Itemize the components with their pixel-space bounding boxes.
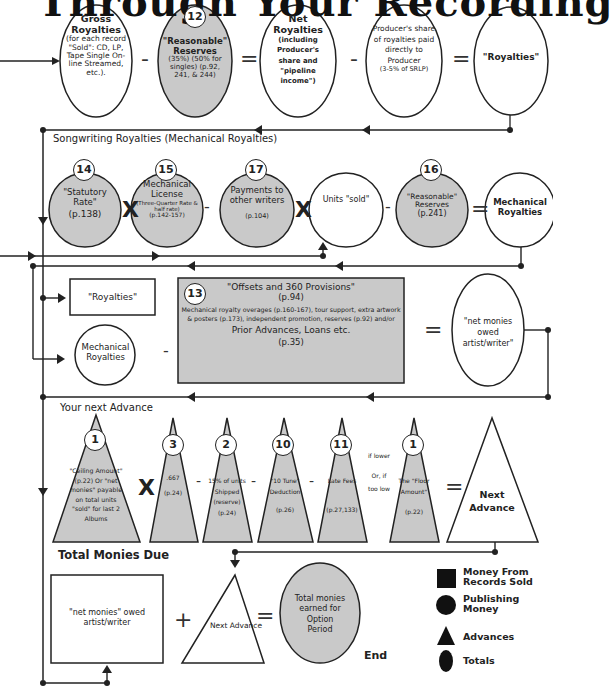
mechanical-license-label: Mechanical License (Three-Quarter Rate &… [134, 180, 200, 219]
badge-10: 10 [272, 434, 294, 456]
arrowhead [57, 354, 65, 364]
badge-11: 11 [330, 434, 352, 456]
producer-share-note: (3-5% of SRLP) [372, 66, 436, 73]
payments-label: Payments to other writers (p.104) [222, 186, 292, 220]
multiply-operator: X [295, 199, 312, 221]
equals-operator: = [471, 198, 489, 220]
reserves-title: "Reasonable" Reserves [162, 37, 228, 56]
gross-royalties-title: Gross Royalties [62, 14, 130, 35]
legend-label: Advances [463, 632, 514, 642]
reserves-16-ref-text: (p.241) [398, 210, 466, 219]
floor-ref: (p.22) [394, 506, 434, 517]
condition-bottom: Or, if too low [366, 469, 392, 495]
next-advance-section-label: Your next Advance [60, 402, 153, 413]
minus-operator: - [196, 474, 201, 488]
net-royalties-title: Net Royalties [265, 14, 331, 35]
statutory-rate-title: "Statutory Rate" [54, 188, 116, 207]
badge-17: 17 [245, 159, 267, 181]
badge-1-floor: 1 [402, 434, 424, 456]
arrowhead [318, 242, 328, 250]
statutory-rate-ref: (p.138) [54, 209, 116, 219]
shipped-ref: (p.24) [207, 508, 247, 519]
mechanical-license-ref: (p.142-157) [134, 212, 200, 219]
minus-operator: - [251, 474, 256, 488]
tune-ref: (p.26) [264, 505, 306, 516]
legend-item-advances: Advances [463, 632, 514, 642]
arrowhead [335, 261, 343, 271]
legend-item-totals: Totals [463, 656, 495, 666]
legend-oval-icon [439, 650, 453, 672]
mechanical-royalties-2-label: Mechanical Royalties [78, 343, 133, 362]
minus-operator: - [385, 199, 391, 215]
end-label: End [364, 650, 404, 662]
producer-share-body: Producer's share of royalties paid direc… [372, 24, 436, 66]
statutory-rate-label: "Statutory Rate" (p.138) [54, 188, 116, 219]
junction-dot [40, 394, 46, 400]
legend-item-records: Money From Records Sold [463, 567, 553, 588]
offsets-body: Mechanical royalty overages (p.160-167),… [180, 305, 402, 324]
legend-label: Totals [463, 656, 495, 666]
offsets-label: "Offsets and 360 Provisions" (p.94) Mech… [180, 282, 402, 347]
legend-square-icon [437, 569, 456, 588]
total-monies-section-label: Total Monies Due [58, 548, 169, 562]
gross-royalties-body: (for each record "Sold": CD, LP, Tape Si… [62, 35, 130, 77]
floor-label: The "Floor Amount" (p.22) [394, 475, 434, 517]
equals-operator: = [256, 605, 274, 627]
total-monies-label: Total monies earned for Option Period [293, 594, 347, 636]
payments-ref: (p.104) [222, 213, 292, 220]
units-sold-label: Units "sold" [321, 196, 371, 205]
offsets-prior-ref: (p.35) [180, 338, 402, 348]
songwriting-section-label: Songwriting Royalties (Mechanical Royalt… [53, 133, 277, 144]
arrowhead [230, 560, 240, 568]
producer-share-label: Producer's share of royalties paid direc… [372, 24, 436, 73]
payments-title: Payments to other writers [222, 186, 292, 205]
arrowhead [102, 665, 112, 673]
next-advance-triangle-2 [182, 575, 264, 663]
reserves-16-title: "Reasonable" Reserves [398, 193, 466, 210]
minus-operator: - [141, 48, 149, 70]
late-fees-label: Late Fees (p.27,133) [320, 478, 364, 513]
reserves-16-label: "Reasonable" Reserves (p.241) [398, 193, 466, 219]
arrowhead [152, 251, 160, 261]
multiply-operator: X [138, 477, 155, 499]
offsets-title: "Offsets and 360 Provisions" [180, 282, 402, 292]
badge-16: 16 [420, 159, 442, 181]
badge-14: 14 [73, 159, 95, 181]
late-fees-body: Late Fees [320, 478, 364, 485]
arrowhead [187, 261, 195, 271]
mechanical-royalties-label: Mechanical Royalties [490, 198, 550, 217]
late-fees-ref: (p.27,133) [320, 507, 364, 514]
badge-1: 1 [84, 429, 106, 451]
legend-label: Publishing Money [463, 594, 523, 615]
rate-ref: (p.24) [156, 490, 190, 497]
plus-operator: + [174, 609, 192, 631]
ceiling-label: "Ceiling Amount" (p.22) Or "net monies" … [66, 466, 126, 524]
arrowhead [28, 251, 36, 261]
offsets-prior: Prior Advances, Loans etc. [180, 325, 402, 335]
badge-3: 3 [162, 434, 184, 456]
floor-body: The "Floor Amount" [394, 475, 434, 498]
arrowhead [362, 125, 370, 135]
arrowhead [187, 392, 195, 402]
equals-operator: = [445, 476, 463, 498]
minus-operator: - [309, 474, 314, 488]
gross-royalties-label: Gross Royalties (for each record "Sold":… [62, 14, 130, 77]
offsets-ref: (p.94) [180, 293, 402, 303]
arrowhead [58, 293, 66, 303]
shipped-label: 15% of units Shipped (reserve) (p.24) [207, 476, 247, 518]
mechanical-license-title: Mechanical License [134, 180, 200, 199]
equals-operator: = [424, 319, 442, 341]
equals-operator: = [240, 48, 258, 70]
equals-operator: = [452, 48, 470, 70]
legend-label: Money From Records Sold [463, 567, 553, 588]
legend-circle-icon [436, 595, 456, 615]
rate-label: .667 (p.24) [156, 475, 190, 496]
legend-item-publishing: Publishing Money [463, 594, 523, 615]
arrowhead [38, 217, 48, 225]
arrowhead [38, 488, 48, 496]
badge-12: 12 [184, 6, 206, 28]
minus-operator: - [163, 343, 169, 359]
shipped-body: 15% of units Shipped (reserve) [207, 476, 247, 508]
net-royalties-body: (including Producer's share and "pipelin… [265, 35, 331, 86]
royalties-oval-label: "Royalties" [478, 52, 544, 62]
